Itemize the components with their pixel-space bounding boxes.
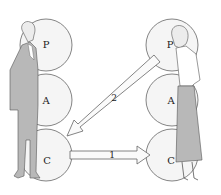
left-adult-label: A bbox=[41, 95, 50, 106]
right-adult-label: A bbox=[166, 95, 175, 106]
transaction-diagram: 1 2 P A C P A C bbox=[0, 0, 221, 195]
arrow-1: 1 bbox=[70, 146, 150, 164]
arrow-2-label: 2 bbox=[111, 93, 117, 103]
arrow-1-label: 1 bbox=[109, 150, 115, 160]
right-parent-label: P bbox=[167, 39, 174, 50]
left-child-label: C bbox=[43, 155, 51, 166]
right-child-label: C bbox=[167, 155, 175, 166]
left-parent-label: P bbox=[43, 39, 50, 50]
